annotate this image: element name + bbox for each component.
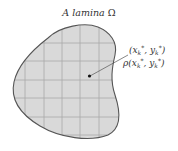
sample-point-label: (xk*, yk*) bbox=[129, 44, 165, 56]
lamina-diagram bbox=[0, 0, 178, 151]
density-label: ρ(xk*, yk*) bbox=[123, 57, 165, 69]
sample-point-dot bbox=[88, 74, 91, 77]
